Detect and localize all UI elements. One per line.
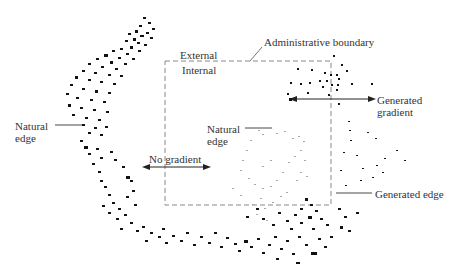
administrative-boundary-leader xyxy=(250,47,262,61)
generated-gradient-label: Generated gradient xyxy=(377,94,422,118)
generated-gradient-arrow xyxy=(289,96,376,102)
no-gradient-label: No gradient xyxy=(149,153,201,165)
diagram-canvas: Administrative boundary External Interna… xyxy=(0,0,460,273)
natural-edge-center-line2: edge xyxy=(207,135,240,147)
natural-edge-left-line2: edge xyxy=(15,132,48,144)
external-label: External xyxy=(180,49,217,61)
natural-edge-center-line1: Natural xyxy=(207,123,240,135)
natural-edge-left-label: Natural edge xyxy=(15,120,48,144)
natural-edge-center-label: Natural edge xyxy=(207,123,240,147)
generated-gradient-line1: Generated xyxy=(377,94,422,106)
internal-label: Internal xyxy=(182,64,216,76)
generated-gradient-line2: gradient xyxy=(377,106,422,118)
settlement-points-gradient xyxy=(287,55,406,186)
natural-edge-left-line1: Natural xyxy=(15,120,48,132)
generated-edge-label: Generated edge xyxy=(375,188,444,200)
administrative-boundary-box xyxy=(165,61,331,205)
settlement-points-faint xyxy=(232,130,308,221)
administrative-boundary-label: Administrative boundary xyxy=(264,36,374,48)
